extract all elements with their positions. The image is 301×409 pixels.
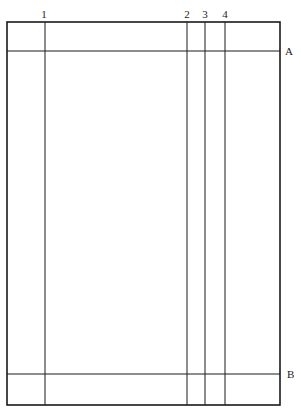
label-line-4: 4 <box>222 8 228 20</box>
grid-diagram: 1 2 3 4 A B <box>0 0 301 409</box>
label-line-3: 3 <box>202 8 208 20</box>
label-line-b: B <box>287 368 294 380</box>
label-line-1: 1 <box>41 8 47 20</box>
label-line-a: A <box>285 45 293 57</box>
page-frame <box>7 22 280 405</box>
label-line-2: 2 <box>184 8 190 20</box>
